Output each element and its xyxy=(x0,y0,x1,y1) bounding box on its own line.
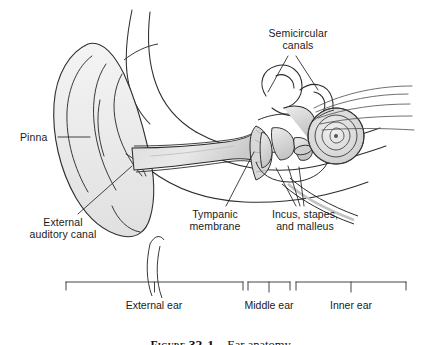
annotation-line: Incus, stapes, xyxy=(258,208,352,220)
annotation-label-tympanic-membrane: Tympanicmembrane xyxy=(172,208,258,232)
leader-semicircular-a xyxy=(268,56,288,92)
incus-bone xyxy=(271,128,294,160)
nerve-bundle-edge xyxy=(314,86,412,108)
annotation-line: Pinna xyxy=(20,131,47,143)
bracket-label-inner-ear: Inner ear xyxy=(291,299,411,311)
region-brackets-group xyxy=(66,282,406,292)
annotation-label-pinna: Pinna xyxy=(20,131,47,143)
annotation-label-semicircular-canals: Semicircularcanals xyxy=(248,27,348,51)
temple-contour xyxy=(148,12,196,132)
annotation-label-external-auditory-canal: Externalauditory canal xyxy=(14,216,112,240)
canal-inner-detail-a xyxy=(276,75,294,88)
annotation-line: External xyxy=(14,216,112,228)
leader-ossicle-malleus xyxy=(299,167,304,206)
ear-anatomy-illustration xyxy=(0,0,431,345)
mastoid-inner xyxy=(157,246,162,298)
cochlea-group xyxy=(308,108,364,164)
mastoid-tip xyxy=(150,237,164,244)
pinna-group xyxy=(54,43,158,236)
annotation-line: and malleus xyxy=(258,220,352,232)
caption-title: Ear anatomy. xyxy=(227,338,293,345)
superior-canal-loop xyxy=(262,65,302,108)
annotation-line: auditory canal xyxy=(14,228,112,240)
bracket-label-external-ear: External ear xyxy=(94,299,214,311)
annotation-line: Tympanic xyxy=(172,208,258,220)
ear-canal-lumen xyxy=(132,130,258,170)
leader-tympanic-membrane xyxy=(226,152,254,206)
cochlea-apex xyxy=(334,134,338,138)
figure-ear-anatomy: PinnaExternalauditory canalSemicircularc… xyxy=(0,0,431,345)
annotation-line: Semicircular xyxy=(248,27,348,39)
annotation-line: membrane xyxy=(172,220,258,232)
annotation-label-incus-stapes-malleus: Incus, stapes,and malleus xyxy=(258,208,352,232)
leader-semicircular-b xyxy=(296,56,318,90)
caption-number: 32-1. xyxy=(189,337,218,345)
mastoid-outline xyxy=(147,244,152,296)
pinna-upper-attach xyxy=(124,44,158,60)
mastoid-group xyxy=(147,237,164,298)
figure-caption: Figure 32-1. Ear anatomy. xyxy=(0,322,431,345)
caption-prefix: Figure xyxy=(150,339,185,345)
annotation-line: canals xyxy=(248,39,348,51)
